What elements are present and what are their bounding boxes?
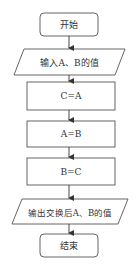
step1-label: C=A [27, 82, 115, 110]
step3-label: B=C [27, 158, 115, 185]
output-label: 输出交换后A、B的值 [12, 199, 128, 224]
start-label: 开始 [40, 13, 98, 36]
end-label: 结束 [40, 234, 98, 257]
input-label: 输入A、B的值 [14, 49, 125, 75]
step2-label: A=B [27, 121, 115, 147]
